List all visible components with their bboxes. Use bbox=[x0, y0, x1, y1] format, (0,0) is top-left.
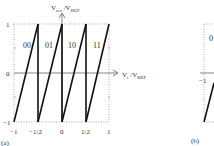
x-tick-half: 1/2 bbox=[81, 128, 90, 136]
panel-b: 0 −1 (b) bbox=[191, 24, 214, 145]
region-label-00: 00 bbox=[23, 41, 31, 50]
transfer-curve-b bbox=[204, 83, 214, 122]
x-tick-b: −1 bbox=[199, 77, 207, 85]
y-axis-label: Vres /VREF bbox=[51, 4, 80, 13]
x-tick-1: 1 bbox=[107, 128, 111, 136]
x-tick-minus-half: −1/2 bbox=[29, 128, 42, 136]
region-label-10: 10 bbox=[68, 41, 76, 50]
y-tick-0: 0 bbox=[6, 70, 10, 78]
x-tick-0: 0 bbox=[60, 128, 64, 136]
panel-a: 00 01 10 11 1 0 −1 −1 −1/2 0 1/2 1 Vres … bbox=[1, 4, 147, 146]
x-tick-minus-1: −1 bbox=[10, 128, 18, 136]
figure: 00 01 10 11 1 0 −1 −1 −1/2 0 1/2 1 Vres … bbox=[0, 0, 214, 146]
region-label-b: 0 bbox=[209, 34, 213, 43]
y-tick-minus-1: −1 bbox=[3, 119, 11, 127]
y-tick-1: 1 bbox=[6, 21, 10, 29]
panel-a-caption: (a) bbox=[1, 139, 9, 146]
panel-b-caption: (b) bbox=[191, 137, 200, 145]
region-label-01: 01 bbox=[45, 41, 53, 50]
region-label-11: 11 bbox=[93, 41, 101, 50]
x-axis-label: Vi /VREF bbox=[122, 71, 147, 80]
